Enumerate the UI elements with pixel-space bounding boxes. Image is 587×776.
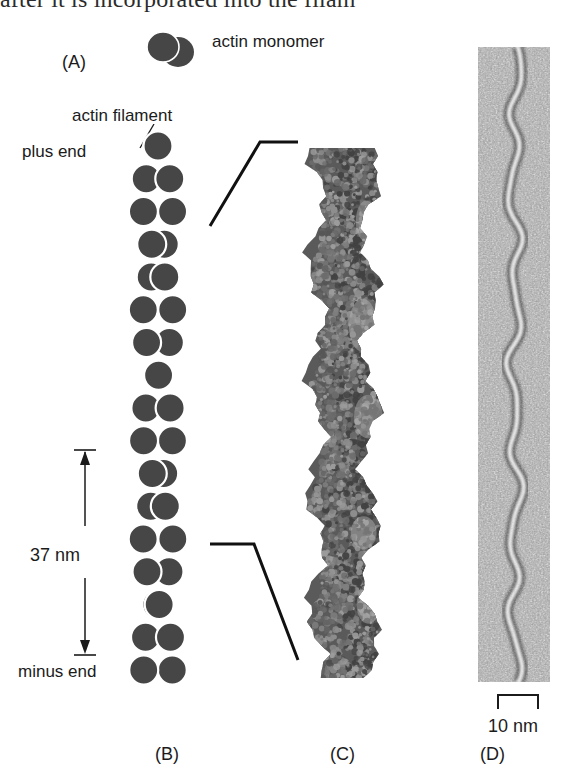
actin-filament-atomic-model [288, 148, 398, 678]
panel-d-caption: (D) [480, 744, 505, 765]
upper-connector-bracket [208, 131, 300, 229]
actin-monomer-label: actin monomer [212, 32, 324, 52]
10nm-scale-bar-icon [495, 692, 541, 712]
10nm-scale-label: 10 nm [488, 716, 538, 737]
electron-micrograph [478, 47, 550, 682]
lower-connector-bracket [208, 539, 300, 664]
actin-filament-label: actin filament [72, 106, 172, 126]
micrograph-image [478, 47, 550, 682]
plus-end-label: plus end [22, 142, 86, 162]
clipped-body-text: after it is incorporated into the filam [0, 0, 470, 13]
actin-filament-diagram [108, 128, 208, 688]
actin-monomer-icon [142, 30, 202, 70]
panel-a-caption: (A) [62, 52, 86, 73]
actin-filament-figure: after it is incorporated into the filam … [0, 0, 587, 776]
minus-end-label: minus end [18, 662, 96, 682]
37nm-scale-label: 37 nm [30, 545, 80, 566]
panel-c-caption: (C) [330, 744, 355, 765]
panel-b-caption: (B) [155, 744, 179, 765]
